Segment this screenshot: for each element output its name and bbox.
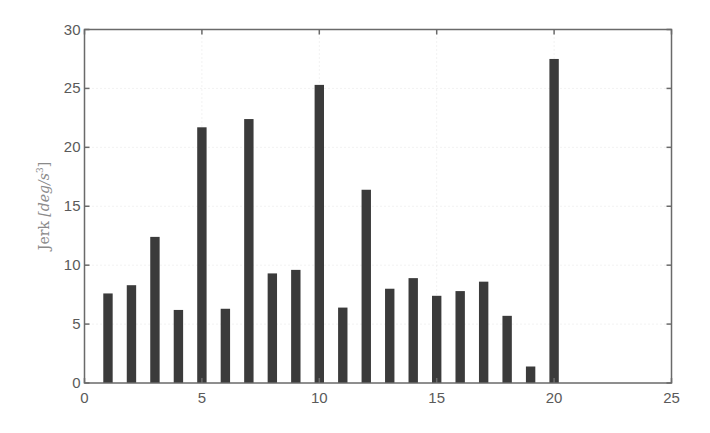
y-tick-label: 0 [72, 374, 80, 391]
x-tick-label: 10 [311, 389, 328, 406]
bar-16: 16: 7.8 [455, 291, 464, 383]
y-tick-label: 15 [64, 197, 81, 214]
bar-14: 14: 8.9 [409, 278, 418, 383]
bar-12: 12: 16.4 [362, 190, 371, 383]
bar-6: 6: 6.3 [221, 309, 230, 383]
y-tick-label: 30 [64, 21, 81, 38]
bar-20: 20: 27.5 [549, 59, 558, 383]
y-tick-label: 20 [64, 138, 81, 155]
bar-10: 10: 25.3 [315, 85, 324, 383]
jerk-bar-chart: 1: 7.62: 8.33: 12.44: 6.25: 21.76: 6.37:… [0, 0, 710, 433]
x-tick-label: 5 [198, 389, 206, 406]
bar-4: 4: 6.2 [174, 310, 183, 383]
bar-series: 1: 7.62: 8.33: 12.44: 6.25: 21.76: 6.37:… [103, 59, 559, 383]
bar-2: 2: 8.3 [127, 285, 136, 383]
bar-7: 7: 22.4 [244, 119, 253, 383]
x-tick-label: 20 [546, 389, 563, 406]
y-axis-tick-labels: 051015202530 [64, 21, 81, 392]
bar-18: 18: 5.7 [502, 316, 511, 383]
bar-9: 9: 9.6 [291, 270, 300, 383]
bar-17: 17: 8.6 [479, 282, 488, 383]
bar-13: 13: 8 [385, 289, 394, 383]
x-tick-label: 25 [663, 389, 680, 406]
y-tick-label: 10 [64, 256, 81, 273]
bar-15: 15: 7.4 [432, 296, 441, 383]
bar-1: 1: 7.6 [103, 293, 112, 383]
bar-8: 8: 9.3 [268, 273, 277, 383]
bar-19: 19: 1.4 [526, 367, 535, 383]
bar-11: 11: 6.4 [338, 308, 347, 383]
y-tick-label: 5 [72, 315, 80, 332]
x-axis-tick-labels: 0510152025 [80, 389, 680, 406]
y-tick-label: 25 [64, 79, 81, 96]
gridlines [85, 30, 672, 384]
x-tick-label: 0 [80, 389, 88, 406]
x-tick-label: 15 [428, 389, 445, 406]
bar-3: 3: 12.4 [150, 237, 159, 383]
y-axis-label: Jerk [deg/s3] [35, 162, 52, 252]
bar-5: 5: 21.7 [197, 127, 206, 383]
